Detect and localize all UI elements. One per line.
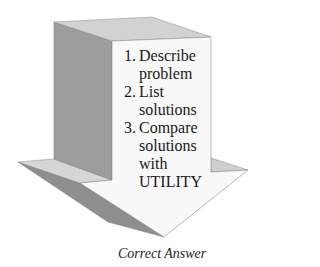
steps-list: 1. Describe problem 2. List solutions 3.… [124,47,214,191]
step-item: 3. Compare solutions with UTILITY [124,119,214,191]
arrow-right-wing-top [211,158,248,172]
step-item: 2. List solutions [124,83,214,119]
step-item: 1. Describe problem [124,47,214,83]
step-number: 2. [124,83,139,119]
step-text: Describe problem [139,47,214,83]
step-number: 3. [124,119,139,191]
arrow-side-face [54,22,112,180]
figure-caption: Correct Answer [118,246,206,262]
step-text: Compare solutions with UTILITY [139,119,214,191]
step-number: 1. [124,47,139,83]
step-text: List solutions [139,83,214,119]
